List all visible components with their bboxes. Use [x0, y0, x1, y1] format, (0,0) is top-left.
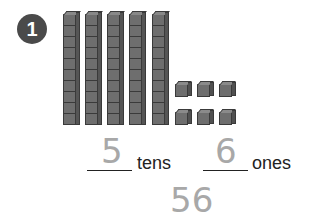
- ones-cube: [175, 84, 188, 97]
- ones-cube: [219, 112, 232, 125]
- ones-blank[interactable]: [203, 170, 248, 171]
- total-answer: 56: [170, 183, 213, 217]
- ones-label: ones: [252, 153, 291, 174]
- ones-cube: [219, 84, 232, 97]
- ones-answer: 6: [215, 134, 237, 168]
- tens-label: tens: [137, 153, 171, 174]
- ones-cube: [197, 84, 210, 97]
- rod-unit: [152, 113, 165, 125]
- rod-unit: [85, 113, 98, 125]
- ones-cube: [197, 112, 210, 125]
- tens-rod: [63, 14, 76, 125]
- tens-rod: [129, 14, 142, 125]
- tens-rod: [107, 14, 120, 125]
- rod-unit: [63, 113, 76, 125]
- ones-cube: [175, 112, 188, 125]
- rod-unit: [107, 113, 120, 125]
- problem-number-badge: 1: [17, 14, 47, 44]
- rod-unit: [129, 113, 142, 125]
- tens-rod: [85, 14, 98, 125]
- tens-blank[interactable]: [87, 170, 132, 171]
- tens-answer: 5: [101, 134, 123, 168]
- tens-rod: [152, 14, 165, 125]
